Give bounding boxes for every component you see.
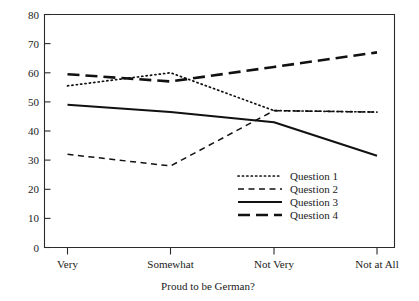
- y-tick-label-40: 40: [28, 125, 40, 137]
- y-axis-ticks: [45, 15, 51, 248]
- legend-item-question-4[interactable]: Question 4: [238, 209, 338, 221]
- y-tick-label-10: 10: [28, 212, 40, 224]
- x-axis-ticks: [68, 248, 378, 255]
- x-tick-label-somewhat: Somewhat: [147, 258, 193, 270]
- plot-border: [45, 15, 395, 248]
- y-axis-labels: 80 70 60 50 40 30 20 10 0: [28, 9, 40, 254]
- legend-label-question-2: Question 2: [290, 183, 338, 195]
- y-tick-label-50: 50: [28, 96, 40, 108]
- y-tick-label-60: 60: [28, 67, 40, 79]
- chart-container: 80 70 60 50 40 30 20 10 0 Very Somewhat …: [0, 0, 419, 301]
- legend-item-question-1[interactable]: Question 1: [238, 170, 338, 182]
- plot-frame: [45, 15, 395, 248]
- chart-legend: Question 1 Question 2 Question 3 Questio…: [238, 170, 338, 221]
- y-tick-label-70: 70: [28, 38, 40, 50]
- line-chart: 80 70 60 50 40 30 20 10 0 Very Somewhat …: [0, 0, 419, 301]
- series-line-question-3: [68, 105, 378, 156]
- x-axis-labels: Very Somewhat Not Very Not at All: [57, 258, 399, 270]
- legend-label-question-3: Question 3: [290, 196, 338, 208]
- series-line-question-4: [68, 52, 378, 81]
- x-tick-label-not-very: Not Very: [254, 258, 294, 270]
- y-tick-label-0: 0: [34, 242, 40, 254]
- y-tick-label-80: 80: [28, 9, 40, 21]
- x-tick-label-not-at-all: Not at All: [355, 258, 398, 270]
- data-series-group: [68, 52, 378, 166]
- series-line-question-2: [68, 111, 378, 166]
- legend-label-question-1: Question 1: [290, 170, 338, 182]
- y-tick-label-20: 20: [28, 183, 40, 195]
- legend-item-question-2[interactable]: Question 2: [238, 183, 338, 195]
- legend-label-question-4: Question 4: [290, 209, 338, 221]
- x-tick-label-very: Very: [57, 258, 78, 270]
- x-axis-title: Proud to be German?: [161, 280, 255, 292]
- legend-item-question-3[interactable]: Question 3: [238, 196, 338, 208]
- y-tick-label-30: 30: [28, 154, 40, 166]
